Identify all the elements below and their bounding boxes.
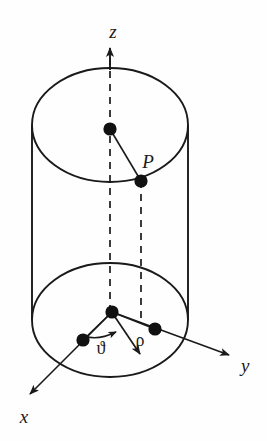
x-axis-label: x	[19, 406, 29, 427]
origin-to-y-dot-line	[112, 312, 155, 329]
point-p	[134, 174, 147, 187]
figure-canvas: z x y ρ ϑ	[0, 0, 267, 441]
y-axis-point	[148, 322, 161, 335]
top-radius-line	[110, 129, 141, 181]
z-axis-label: z	[108, 21, 117, 42]
y-axis-label: y	[239, 355, 250, 376]
rho-group: ρ	[113, 314, 145, 354]
origin-point	[105, 305, 118, 318]
top-center-point	[103, 122, 116, 135]
theta-group: ϑ	[85, 332, 116, 358]
rho-label: ρ	[136, 330, 145, 350]
z-axis-group: z	[108, 21, 117, 312]
point-p-label: P	[141, 151, 154, 172]
cylindrical-coordinates-figure: z x y ρ ϑ	[0, 0, 267, 441]
theta-label: ϑ	[97, 338, 106, 358]
x-axis-point	[76, 333, 89, 346]
